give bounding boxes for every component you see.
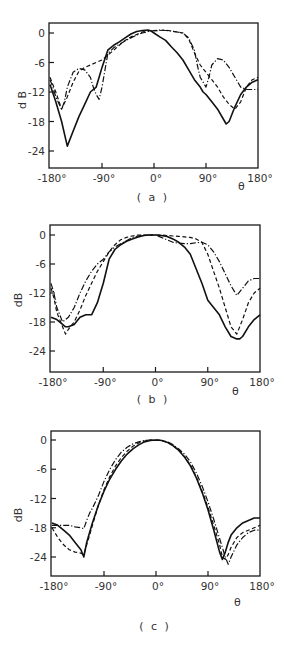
y-axis-label: dB xyxy=(12,508,25,523)
x-tick-label: -90° xyxy=(94,376,116,388)
x-tick-label: 180° xyxy=(249,376,274,388)
series-group xyxy=(51,235,260,339)
x-tick-label: -180° xyxy=(38,376,67,388)
series-solid-line xyxy=(50,30,258,146)
y-tick-label: -24 xyxy=(30,551,47,563)
x-tick-label: 90° xyxy=(200,376,219,388)
x-tick-label: 0° xyxy=(152,376,164,388)
series-dashed-line xyxy=(51,235,260,334)
series-group xyxy=(52,440,260,564)
x-tick-label: 90° xyxy=(199,172,218,184)
chart-panel-b: 0-6-12-18-24-180°-90°0°90°180° dB θ ( b … xyxy=(12,225,275,406)
y-tick-label: -24 xyxy=(29,345,46,357)
y-axis-label: dB xyxy=(12,293,25,308)
x-tick-label: -180° xyxy=(37,172,66,184)
series-group xyxy=(50,30,258,146)
y-tick-label: -18 xyxy=(30,522,47,534)
x-axis-label: θ xyxy=(238,180,245,193)
axis-ticks: 0-6-12-18-24-180°-90°0°90°180° xyxy=(29,229,275,388)
y-tick-label: -24 xyxy=(28,145,45,157)
series-dash-dot-line xyxy=(51,235,260,322)
plot-frame xyxy=(50,225,260,372)
panel-caption: ( c ) xyxy=(139,620,171,633)
y-tick-label: -6 xyxy=(35,57,46,69)
x-axis-label: θ xyxy=(232,385,239,398)
axis-ticks: 0-6-12-18-24-180°-90°0°90°180° xyxy=(30,434,275,592)
y-tick-label: 0 xyxy=(39,229,46,241)
x-tick-label: -180° xyxy=(39,580,68,592)
y-tick-label: 0 xyxy=(40,434,47,446)
y-axis-label: d B xyxy=(16,91,29,109)
chart-panel-c: 0-6-12-18-24-180°-90°0°90°180° dB θ ( c … xyxy=(12,431,275,633)
chart-panel-a: 0-6-12-18-24-180°-90°0°90°180° d B θ ( a… xyxy=(16,23,273,204)
y-tick-label: -6 xyxy=(36,258,47,270)
plot-frame xyxy=(49,23,258,168)
y-tick-label: -12 xyxy=(30,493,47,505)
y-tick-label: -6 xyxy=(37,463,48,475)
x-tick-label: 180° xyxy=(249,580,274,592)
y-tick-label: 0 xyxy=(38,27,45,39)
panel-caption: ( b ) xyxy=(137,393,170,406)
series-dash-dot-line xyxy=(52,440,260,564)
figure: 0-6-12-18-24-180°-90°0°90°180° d B θ ( a… xyxy=(0,0,288,646)
x-tick-label: 0° xyxy=(150,172,162,184)
y-tick-label: -12 xyxy=(29,287,46,299)
y-tick-label: -18 xyxy=(28,116,45,128)
x-tick-label: 90° xyxy=(201,580,220,592)
series-dashed-line xyxy=(50,30,258,109)
x-axis-label: θ xyxy=(234,596,241,609)
y-tick-label: -18 xyxy=(29,316,46,328)
y-tick-label: -12 xyxy=(28,86,45,98)
x-tick-label: -90° xyxy=(95,580,117,592)
x-tick-label: -90° xyxy=(93,172,115,184)
x-tick-label: 0° xyxy=(152,580,164,592)
panel-caption: ( a ) xyxy=(137,191,169,204)
x-tick-label: 180° xyxy=(247,172,272,184)
series-solid-line xyxy=(52,440,260,559)
